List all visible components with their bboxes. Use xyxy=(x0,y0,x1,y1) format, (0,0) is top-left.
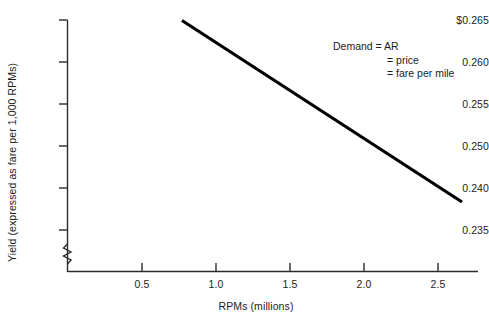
demand-annotation: Demand = AR = price = fare per mile xyxy=(333,40,454,81)
x-axis-title: RPMs (millions) xyxy=(196,300,316,312)
y-tick-label: 0.240 xyxy=(434,182,489,194)
y-tick-label: 0.255 xyxy=(434,98,489,110)
x-tick-label: 1.5 xyxy=(283,278,298,290)
y-tick-label: 0.250 xyxy=(434,140,489,152)
y-tick-label: $0.265 xyxy=(434,14,489,26)
demand-annotation-line-2: = price xyxy=(387,54,419,66)
demand-annotation-line-3: = fare per mile xyxy=(387,67,454,79)
y-axis-title: Yield (expressed as fare per 1,000 RPMs) xyxy=(6,246,18,262)
x-tick-label: 1.0 xyxy=(209,278,224,290)
demand-annotation-line-3-wrap: = fare per mile xyxy=(333,67,454,81)
x-tick-label: 0.5 xyxy=(135,278,150,290)
demand-annotation-line-2-wrap: = price xyxy=(333,54,454,68)
x-tick-label: 2.5 xyxy=(431,278,446,290)
y-axis-ticks xyxy=(59,20,68,230)
y-tick-label: 0.235 xyxy=(434,224,489,236)
x-axis-ticks xyxy=(142,263,438,272)
demand-annotation-line-1: Demand = AR xyxy=(333,40,454,54)
demand-curve-chart: $0.265 0.260 0.255 0.250 0.240 0.235 0.5… xyxy=(0,0,489,328)
x-tick-label: 2.0 xyxy=(357,278,372,290)
